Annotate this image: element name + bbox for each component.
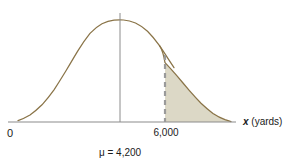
threshold-value-label: 6,000 — [146, 128, 186, 138]
normal-distribution-figure: 0 μ = 4,200 σ = 1,400 6,000 x (yards) — [0, 0, 286, 160]
x-axis-units: (yards) — [249, 116, 283, 127]
origin-label: 0 — [7, 128, 13, 139]
x-axis-label: x (yards) — [243, 117, 282, 127]
mean-label: μ = 4,200 — [62, 148, 178, 158]
shaded-tail-region — [165, 63, 231, 122]
